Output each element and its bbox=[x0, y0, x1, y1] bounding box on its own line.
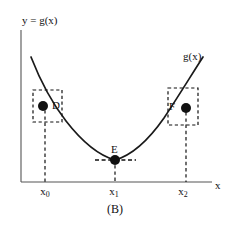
x-tick-label-0: x0 bbox=[40, 186, 49, 199]
figure-container: y = g(x) x g(x) D E F x0 x1 x2 (B) bbox=[0, 0, 230, 229]
x-tick-label-1-sub: 1 bbox=[115, 190, 119, 199]
point-label-d: D bbox=[52, 100, 60, 111]
x-tick-label-2: x2 bbox=[178, 186, 187, 199]
curve-label: g(x) bbox=[183, 51, 201, 62]
x-tick-label-1: x1 bbox=[109, 186, 118, 199]
figure-caption: (B) bbox=[107, 203, 123, 215]
point-label-f: F bbox=[169, 101, 175, 112]
y-axis-label: y = g(x) bbox=[22, 15, 58, 26]
x-tick-label-0-sub: 0 bbox=[46, 190, 50, 199]
x-axis-label: x bbox=[215, 180, 221, 191]
x-tick-label-2-sub: 2 bbox=[184, 190, 188, 199]
marker-dot-f bbox=[181, 103, 191, 113]
marker-dot-d bbox=[38, 101, 48, 111]
point-label-e: E bbox=[111, 144, 118, 155]
marker-dot-e bbox=[110, 155, 120, 165]
